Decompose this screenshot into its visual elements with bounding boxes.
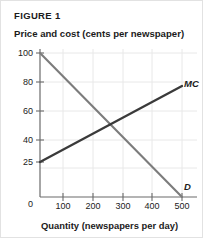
- y-tick-label-40: 40: [7, 135, 33, 145]
- x-tick-label-200: 200: [78, 201, 108, 211]
- y-tick-label-25: 25: [7, 157, 33, 167]
- figure-panel: FIGURE 1 Price and cost (cents per newsp…: [0, 0, 203, 238]
- demand-curve-label: D: [184, 181, 191, 192]
- gridlines-vertical: [63, 49, 182, 197]
- y-tick-label-100: 100: [7, 48, 33, 58]
- x-tick-label-400: 400: [137, 201, 167, 211]
- marginal-cost-curve-label: MC: [184, 78, 199, 89]
- y-tick-label-80: 80: [7, 77, 33, 87]
- x-axis-title: Quantity (newspapers per day): [41, 220, 178, 231]
- x-tick-label-500: 500: [167, 201, 197, 211]
- y-tick-label-60: 60: [7, 106, 33, 116]
- x-tick-label-300: 300: [108, 201, 138, 211]
- y-tick-label-0: 0: [7, 199, 33, 209]
- gridlines-horizontal: [40, 53, 197, 168]
- marginal-cost-curve-line: [40, 86, 182, 162]
- x-tick-label-100: 100: [48, 201, 78, 211]
